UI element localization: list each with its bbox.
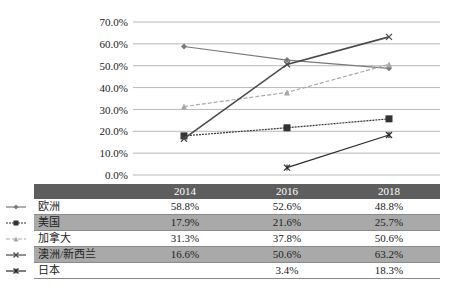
gridlines [133,22,440,175]
table-row-japan: 日本 3.4% 18.3% [34,263,440,279]
data-table: 2014 2016 2018 欧洲 58.8% 52.6% 48.8% 美国 1… [34,184,440,279]
legend-key-2 [6,237,26,242]
table-row-canada: 加拿大 31.3% 37.8% 50.6% [34,231,440,247]
table-row-usa: 美国 17.9% 21.6% 25.7% [34,215,440,231]
table-row-australia-nz: 澳洲/新西兰 16.6% 50.6% 63.2% [34,247,440,263]
series-lines [181,34,393,171]
col-2014: 2014 [134,184,236,199]
series-0 [181,43,392,71]
col-2016: 2016 [236,184,338,199]
series-4 [284,132,392,171]
legend-key-0 [6,205,26,210]
legend-key-4 [6,269,26,274]
legend-key-1 [6,221,26,226]
table-header: 2014 2016 2018 [34,184,440,199]
legend-markers [6,205,26,274]
legend-key-3 [6,253,26,258]
series-2 [181,61,392,109]
table-row-europe: 欧洲 58.8% 52.6% 48.8% [34,199,440,215]
col-2018: 2018 [338,184,440,199]
